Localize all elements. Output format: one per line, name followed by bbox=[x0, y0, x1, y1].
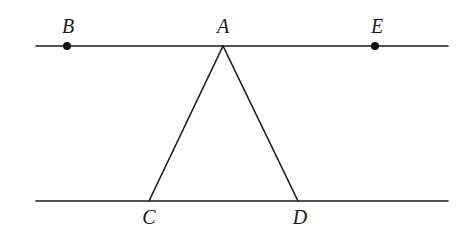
label-a: A bbox=[215, 15, 230, 37]
geometry-diagram: B A E C D bbox=[0, 0, 468, 235]
diagram-canvas: B A E C D bbox=[0, 0, 468, 235]
label-e: E bbox=[370, 15, 383, 37]
point-e-dot bbox=[371, 42, 379, 50]
label-c: C bbox=[142, 206, 156, 228]
label-b: B bbox=[62, 15, 74, 37]
label-d: D bbox=[292, 206, 308, 228]
point-b-dot bbox=[63, 42, 71, 50]
segment-ad bbox=[223, 46, 298, 201]
segment-ac bbox=[149, 46, 223, 201]
